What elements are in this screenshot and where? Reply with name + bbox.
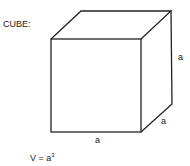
cube-diagram: CUBE: a a a V = a3 <box>0 0 190 166</box>
formula-exponent: 3 <box>51 152 54 158</box>
depth-edge-label: a <box>161 116 166 126</box>
volume-formula: V = a3 <box>30 150 55 163</box>
bottom-edge-label: a <box>95 135 100 145</box>
cube-top-face <box>51 11 171 39</box>
cube-front-face <box>51 39 141 132</box>
formula-base: V = a <box>30 153 51 163</box>
cube-side-face <box>141 11 172 132</box>
diagram-title: CUBE: <box>3 19 31 29</box>
right-edge-label: a <box>178 52 183 62</box>
